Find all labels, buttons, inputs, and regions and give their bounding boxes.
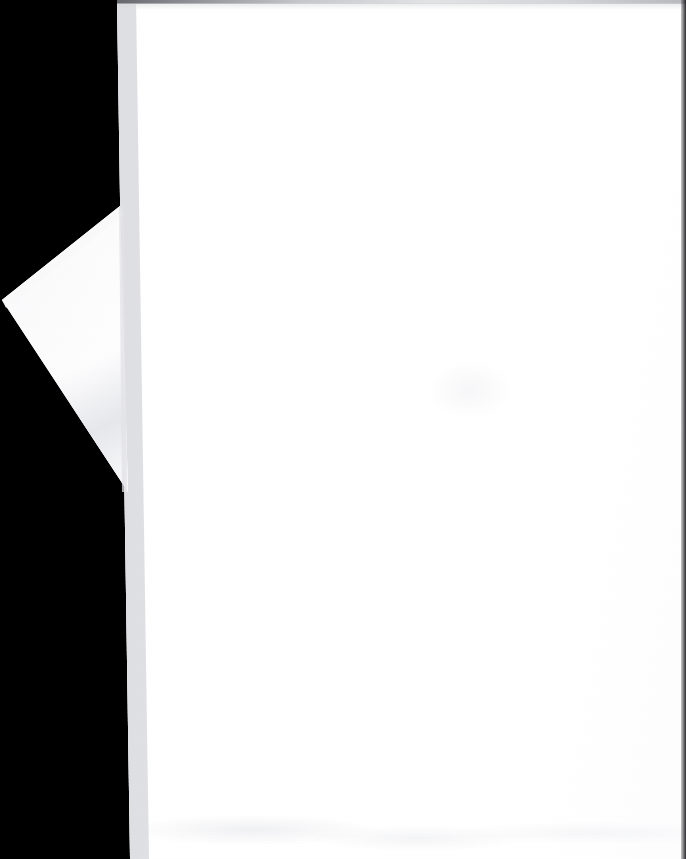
scanned-page-canvas: [0, 0, 686, 859]
